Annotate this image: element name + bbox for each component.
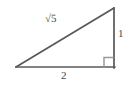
radicand-value: 5 [51, 12, 57, 24]
hypotenuse-label: √5 [44, 13, 57, 24]
vertical-leg-label: 1 [118, 28, 124, 39]
horizontal-leg-label: 2 [61, 70, 67, 81]
triangle-hypotenuse-line [16, 8, 114, 67]
radical-group: √5 [44, 13, 57, 24]
right-angle-marker-icon [104, 58, 114, 68]
triangle-figure: √5 1 2 [0, 0, 130, 86]
